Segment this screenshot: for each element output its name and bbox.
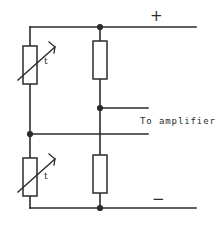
node-supply-positive-junction	[97, 24, 103, 30]
resistor-bottom-right-body	[93, 155, 107, 193]
schematic-drawing	[0, 0, 216, 225]
node-supply-negative-junction	[97, 205, 103, 211]
circuit-diagram-canvas: + − To amplifier t t	[0, 0, 216, 225]
resistor-top-right-body	[93, 41, 107, 79]
thermistor-top-left-label: t	[44, 57, 48, 66]
node-amplifier-tap-left	[27, 131, 33, 137]
positive-terminal-label: +	[150, 9, 163, 24]
node-amplifier-tap-right	[97, 105, 103, 111]
amplifier-output-label: To amplifier	[140, 117, 216, 126]
thermistor-bottom-left-label: t	[44, 172, 48, 181]
negative-terminal-label: −	[152, 192, 165, 207]
